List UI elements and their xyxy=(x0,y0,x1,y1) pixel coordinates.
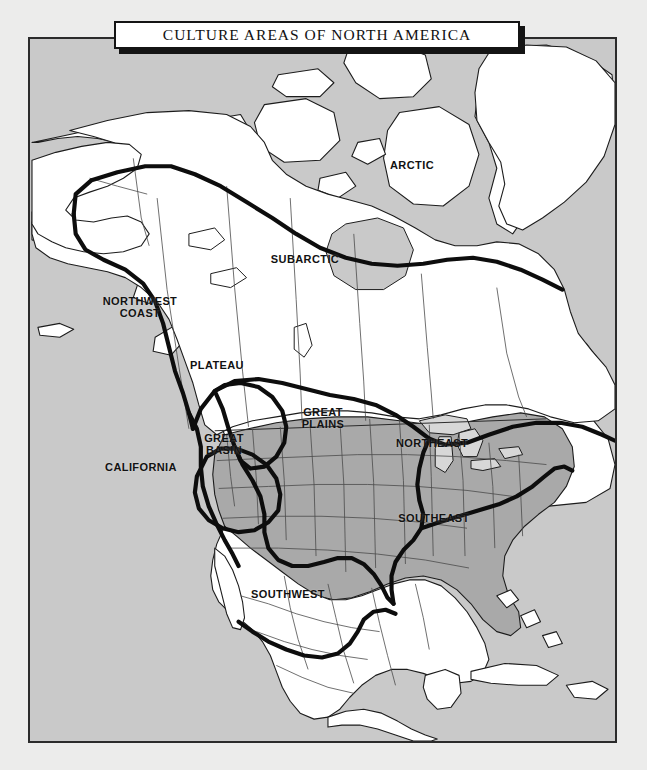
culture-area-label-southwest: SOUTHWEST xyxy=(251,588,325,600)
page-title: CULTURE AREAS OF NORTH AMERICA xyxy=(163,26,471,44)
culture-area-label-great-plains: GREAT PLAINS xyxy=(302,406,345,430)
yucatan-peninsula xyxy=(423,669,461,709)
map-title-plaque: CULTURE AREAS OF NORTH AMERICA xyxy=(114,21,520,49)
culture-area-label-subarctic: SUBARCTIC xyxy=(271,253,339,265)
baffin-island xyxy=(384,107,479,206)
culture-area-label-northwest-coast: NORTHWEST COAST xyxy=(103,295,177,319)
map-graphic: .land-w{fill:#ffffff;stroke:#1c1c1c;stro… xyxy=(30,39,615,741)
culture-area-label-great-basin: GREAT BASIN xyxy=(204,432,244,456)
map-frame: .land-w{fill:#ffffff;stroke:#1c1c1c;stro… xyxy=(28,37,617,743)
bottom-caption xyxy=(28,757,617,768)
culture-area-label-arctic: ARCTIC xyxy=(390,159,434,171)
ellesmere-island xyxy=(344,43,431,99)
map-page: .land-w{fill:#ffffff;stroke:#1c1c1c;stro… xyxy=(0,0,647,770)
culture-area-label-plateau: PLATEAU xyxy=(190,359,244,371)
aleutian-islands xyxy=(38,323,74,337)
small-arctic-island-a xyxy=(352,138,386,164)
culture-area-label-southeast: SOUTHEAST xyxy=(398,512,469,524)
hispaniola-island xyxy=(566,681,608,699)
culture-area-label-california: CALIFORNIA xyxy=(105,461,177,473)
central-america-landmass xyxy=(328,709,437,741)
culture-area-label-northeast: NORTHEAST xyxy=(396,437,468,449)
melville-island xyxy=(272,69,334,97)
